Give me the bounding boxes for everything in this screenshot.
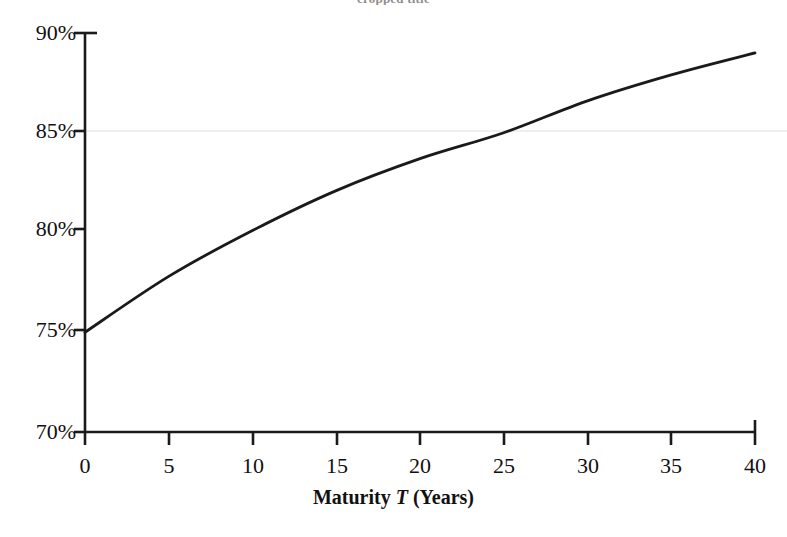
x-axis-title-main: Maturity [313,486,391,508]
x-tick-label-25: 25 [474,455,534,477]
x-tick-label-40: 40 [725,455,785,477]
x-axis-title: Maturity T (Years) [0,486,787,509]
chart-figure: cropped title [0,0,787,537]
x-tick-label-15: 15 [307,455,367,477]
x-axis-title-symbol: T [396,486,408,508]
x-tick-label-5: 5 [139,455,199,477]
x-tick-label-35: 35 [641,455,701,477]
x-axis-tick-labels: 0 5 10 15 20 25 30 35 40 [0,0,787,537]
x-axis-title-unit: (Years) [413,486,474,508]
x-tick-label-10: 10 [223,455,283,477]
x-tick-label-20: 20 [390,455,450,477]
x-tick-label-0: 0 [55,455,115,477]
x-tick-label-30: 30 [558,455,618,477]
